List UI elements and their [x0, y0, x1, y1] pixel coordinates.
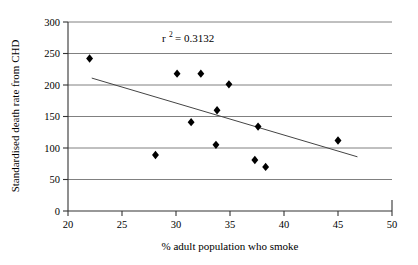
r-squared-value: = 0.3132 — [175, 32, 214, 44]
y-tick-label-200: 200 — [44, 80, 60, 91]
x-tick-label-25: 25 — [117, 219, 128, 230]
x-tick-label-50: 50 — [387, 219, 398, 230]
x-tick-label-30: 30 — [171, 219, 182, 230]
chart-canvas: 050100150200250300 20253035404550 r 2 = … — [0, 0, 418, 265]
r-squared-superscript: 2 — [169, 30, 173, 39]
y-axis-title: Standardised death rate from CHD — [9, 40, 21, 193]
y-tick-label-0: 0 — [55, 206, 60, 217]
y-tick-label-100: 100 — [44, 143, 60, 154]
scatter-plot-figure: 050100150200250300 20253035404550 r 2 = … — [0, 0, 418, 265]
x-axis-title: % adult population who smoke — [162, 240, 299, 252]
y-tick-label-50: 50 — [50, 174, 61, 185]
x-tick-label-40: 40 — [279, 219, 290, 230]
y-tick-label-300: 300 — [44, 17, 60, 28]
x-tick-label-20: 20 — [63, 219, 74, 230]
x-tick-label-35: 35 — [225, 219, 236, 230]
x-tick-label-45: 45 — [333, 219, 344, 230]
r-squared-prefix: r — [162, 32, 166, 44]
y-tick-label-150: 150 — [44, 111, 60, 122]
y-tick-label-250: 250 — [44, 48, 60, 59]
